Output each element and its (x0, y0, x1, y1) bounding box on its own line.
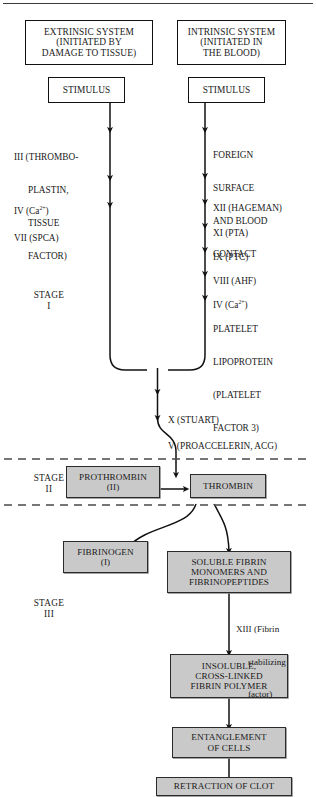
box-entanglement: ENTANGLEMENT OF CELLS (172, 727, 286, 758)
entanglement-line-2: OF CELLS (175, 743, 283, 753)
factor-xiii-line-3: factor) (236, 689, 286, 700)
top-rule (3, 3, 313, 4)
box-stimulus-extrinsic: STIMULUS (48, 77, 125, 103)
label-factor-xiii: XIII (Fibrin stabilizing factor) (236, 603, 286, 721)
fibrinogen-line-2: (I) (66, 557, 145, 567)
box-retraction-of-clot: RETRACTION OF CLOT (156, 777, 292, 796)
stage-label-iii: STAGE III (16, 598, 82, 620)
prothrombin-line-1: PROTHROMBIN (69, 472, 157, 482)
factor-iii-line-1: III (THROMBO- (14, 152, 78, 163)
factor-xiii-line-2: stabilizing (236, 657, 286, 668)
soluble-fibrin-line-1: SOLUBLE FIBRIN (170, 557, 288, 567)
platelet-line-3: (PLATELET (213, 390, 273, 401)
box-fibrinogen: FIBRINOGEN (I) (63, 541, 148, 573)
box-intrinsic-system: INTRINSIC SYSTEM (INITIATED IN THE BLOOD… (177, 20, 286, 65)
intrinsic-merge-curve (168, 298, 205, 370)
platelet-line-1: PLATELET (213, 324, 273, 335)
stage-i-word: STAGE (16, 290, 82, 301)
label-factor-v: V (PROACCELERIN, ACG) (168, 419, 277, 474)
platelet-line-2: LIPOPROTEIN (213, 357, 273, 368)
box-extrinsic-system: EXTRINSIC SYSTEM (INITIATED BY DAMAGE TO… (25, 20, 153, 65)
thrombin-label: THROMBIN (193, 481, 263, 491)
stage-iii-word: STAGE (16, 598, 82, 609)
box-soluble-fibrin: SOLUBLE FIBRIN MONOMERS AND FIBRINOPEPTI… (167, 551, 291, 593)
extrinsic-line-2: (INITIATED BY (28, 37, 150, 48)
stage-iii-numeral: III (16, 609, 82, 620)
soluble-fibrin-line-2: MONOMERS AND (170, 567, 288, 577)
factor-v-text: V (PROACCELERIN, ACG) (168, 441, 277, 452)
arrow-thrombin-to-soluble-fibrin (214, 504, 229, 551)
factor-xiii-line-1: XIII (Fibrin (236, 624, 286, 635)
box-stimulus-intrinsic: STIMULUS (188, 77, 265, 103)
stimulus-extrinsic-label: STIMULUS (51, 85, 122, 96)
intrinsic-line-1: INTRINSIC SYSTEM (180, 27, 283, 38)
stage-label-i: STAGE I (16, 290, 82, 312)
foreign-surface-line-1: FOREIGN (213, 150, 268, 161)
soluble-fibrin-line-3: FIBRINOPEPTIDES (170, 577, 288, 587)
factor-vii-text: VII (SPCA) (14, 233, 59, 244)
box-prothrombin: PROTHROMBIN (II) (66, 466, 160, 498)
extrinsic-line-1: EXTRINSIC SYSTEM (28, 27, 150, 38)
coagulation-cascade-diagram: EXTRINSIC SYSTEM (INITIATED BY DAMAGE TO… (0, 0, 316, 797)
intrinsic-line-3: THE BLOOD) (180, 48, 283, 59)
label-factor-vii: VII (SPCA) (14, 211, 59, 266)
extrinsic-merge-curve (110, 205, 147, 370)
intrinsic-line-2: (INITIATED IN (180, 37, 283, 48)
extrinsic-line-3: DAMAGE TO TISSUE) (28, 48, 150, 59)
retraction-label: RETRACTION OF CLOT (159, 781, 289, 791)
stimulus-intrinsic-label: STIMULUS (191, 85, 262, 96)
entanglement-line-1: ENTANGLEMENT (175, 732, 283, 742)
stage-i-numeral: I (16, 301, 82, 312)
box-thrombin: THROMBIN (190, 474, 266, 498)
prothrombin-line-2: (II) (69, 482, 157, 492)
fibrinogen-line-1: FIBRINOGEN (66, 547, 145, 557)
